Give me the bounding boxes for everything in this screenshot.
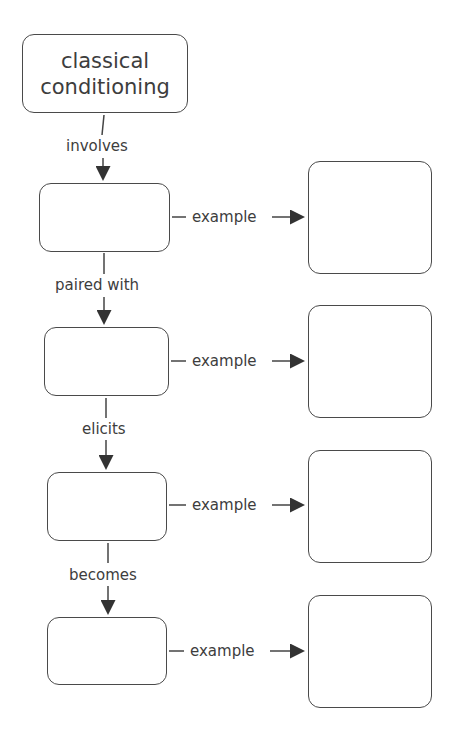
example-label-3: example [192, 496, 257, 514]
example-node-3[interactable] [308, 450, 432, 563]
concept-node-classical-conditioning[interactable]: classical conditioning [22, 34, 188, 113]
example-node-2[interactable] [308, 305, 432, 418]
concept-node-1[interactable] [39, 183, 170, 252]
concept-node-2[interactable] [44, 327, 169, 396]
link-label-elicits: elicits [82, 420, 126, 438]
link-label-paired-with: paired with [55, 276, 139, 294]
example-label-1: example [192, 208, 257, 226]
concept-node-3[interactable] [47, 472, 167, 541]
example-node-4[interactable] [308, 595, 432, 708]
link-label-becomes: becomes [69, 566, 137, 584]
example-label-4: example [190, 642, 255, 660]
concept-node-4[interactable] [47, 617, 167, 685]
node-title-line2: conditioning [40, 74, 170, 100]
example-node-1[interactable] [308, 161, 432, 274]
example-label-2: example [192, 352, 257, 370]
node-title-line1: classical [40, 48, 170, 74]
link-label-involves: involves [66, 137, 128, 155]
